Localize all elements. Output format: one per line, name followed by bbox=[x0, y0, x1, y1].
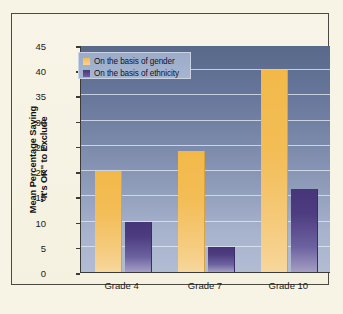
legend-item-ethnicity: On the basis of ethnicity bbox=[83, 68, 186, 79]
y-axis-title: Mean Percentage Saying "It's OK" to Excl… bbox=[25, 46, 53, 273]
bar-ethnicity-grade-10 bbox=[291, 189, 318, 272]
bar-gender-grade-4 bbox=[95, 171, 122, 272]
y-axis-tick-mark bbox=[76, 273, 80, 275]
gridline bbox=[81, 120, 330, 121]
y-axis-tick-label: 25 bbox=[12, 142, 46, 151]
y-axis-tick-label: 10 bbox=[12, 218, 46, 227]
y-axis-tick-label: 30 bbox=[12, 117, 46, 126]
x-axis-tick-label: Grade 10 bbox=[253, 280, 323, 291]
legend-swatch-gender-icon bbox=[83, 58, 90, 65]
x-axis-tick-label: Grade 4 bbox=[87, 280, 157, 291]
chart-legend: On the basis of gender On the basis of e… bbox=[78, 52, 191, 79]
y-axis-tick-label: 35 bbox=[12, 92, 46, 101]
plot-area bbox=[80, 46, 330, 273]
bar-ethnicity-grade-4 bbox=[125, 222, 152, 272]
y-axis-tick-label: 15 bbox=[12, 193, 46, 202]
legend-swatch-ethnicity-icon bbox=[83, 70, 90, 77]
legend-label-ethnicity: On the basis of ethnicity bbox=[94, 69, 179, 78]
y-axis-tick-label: 45 bbox=[12, 42, 46, 51]
legend-item-gender: On the basis of gender bbox=[83, 56, 186, 67]
y-axis-title-line-2: "It's OK" to Exclude bbox=[39, 117, 49, 203]
y-axis-tick-label: 5 bbox=[12, 243, 46, 252]
y-axis-tick-label: 20 bbox=[12, 168, 46, 177]
y-axis-tick-label: 40 bbox=[12, 67, 46, 76]
bar-ethnicity-grade-7 bbox=[208, 247, 235, 272]
gridline bbox=[81, 94, 330, 95]
x-axis-tick-label: Grade 7 bbox=[170, 280, 240, 291]
bar-gender-grade-10 bbox=[261, 70, 288, 272]
bar-gender-grade-7 bbox=[178, 151, 205, 272]
gridline bbox=[81, 145, 330, 146]
chart-frame: Mean Percentage Saying "It's OK" to Excl… bbox=[11, 13, 329, 285]
y-axis-tick-label: 0 bbox=[12, 269, 46, 278]
legend-label-gender: On the basis of gender bbox=[94, 57, 175, 66]
chart-figure: Mean Percentage Saying "It's OK" to Excl… bbox=[0, 0, 343, 314]
